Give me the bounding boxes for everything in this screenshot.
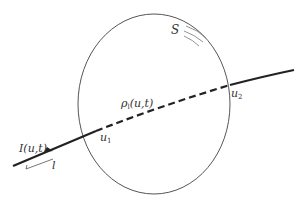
line-dashed-inside [96, 85, 230, 131]
label-length: l [52, 160, 56, 171]
diagram-canvas [0, 0, 308, 203]
surface-circle [78, 14, 230, 194]
length-bracket [26, 159, 53, 169]
label-u1-sub: 1 [107, 137, 111, 145]
label-u1: u1 [100, 132, 112, 145]
surface-hatch-icon [184, 26, 206, 46]
line-outgoing [230, 70, 294, 85]
label-density: ρl(u,t) [121, 98, 153, 111]
label-u2: u2 [231, 88, 243, 101]
label-density-args: (u,t) [130, 97, 154, 110]
label-surface: S [171, 24, 179, 36]
label-u2-sub: 2 [238, 93, 242, 101]
label-intensity: I(u,t) [19, 143, 47, 154]
